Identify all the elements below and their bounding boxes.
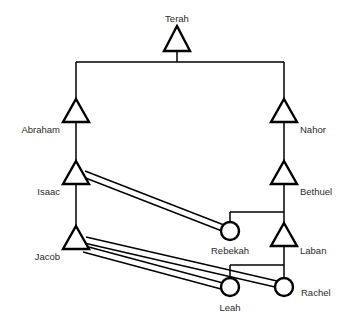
node-terah-triangle[interactable] xyxy=(164,26,190,51)
label-terah: Terah xyxy=(165,13,189,24)
label-isaac: Isaac xyxy=(37,186,60,197)
marriage-isaac-rebekah-line-a xyxy=(85,171,224,225)
node-bethuel-triangle[interactable] xyxy=(271,161,297,184)
node-jacob-triangle[interactable] xyxy=(63,226,89,249)
label-rachel: Rachel xyxy=(301,287,331,298)
label-jacob: Jacob xyxy=(35,251,60,262)
node-isaac-triangle[interactable] xyxy=(63,161,89,184)
label-nahor: Nahor xyxy=(300,124,326,135)
node-leah-circle[interactable] xyxy=(221,278,239,296)
node-rebekah-circle[interactable] xyxy=(221,222,239,240)
label-rebekah: Rebekah xyxy=(211,245,249,256)
marriage-lines-group xyxy=(83,171,277,289)
marriage-jacob-rachel-line-a xyxy=(86,237,277,281)
kinship-diagram: Terah Abraham Nahor Isaac Bethuel Jacob … xyxy=(0,0,350,329)
node-abraham-triangle[interactable] xyxy=(63,99,89,122)
node-laban-triangle[interactable] xyxy=(271,223,297,246)
kinship-diagram-canvas: Terah Abraham Nahor Isaac Bethuel Jacob … xyxy=(0,0,350,329)
label-bethuel: Bethuel xyxy=(300,186,332,197)
marriage-isaac-rebekah-line-b xyxy=(83,177,222,231)
node-nahor-triangle[interactable] xyxy=(271,99,297,122)
node-rachel-circle[interactable] xyxy=(275,278,293,296)
descent-lines-group xyxy=(76,51,284,278)
label-laban: Laban xyxy=(300,245,326,256)
label-leah: Leah xyxy=(219,302,240,313)
label-abraham: Abraham xyxy=(21,124,60,135)
